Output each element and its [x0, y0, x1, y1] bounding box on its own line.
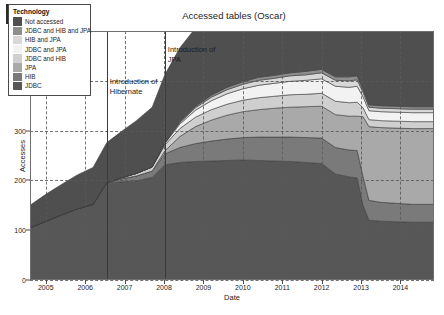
gridline-horizontal: [30, 280, 434, 281]
x-axis-tick-label: 2012: [314, 284, 330, 291]
legend-item: JDBC and JPA: [13, 45, 86, 54]
figure-panel: (a) Accessed tables (Oscar) 010020030040…: [0, 0, 444, 315]
x-axis-tick-label: 2013: [353, 284, 369, 291]
legend-item-label: JPA: [25, 64, 36, 71]
x-axis-tick-label: 2010: [235, 284, 251, 291]
legend-swatch-icon: [13, 82, 22, 90]
legend-swatch-icon: [13, 27, 22, 35]
y-axis-tick-label: 300: [14, 127, 26, 134]
legend-item-label: JDBC: [25, 82, 41, 89]
legend-item: JPA: [13, 63, 86, 72]
legend: Technology Not accessedJDBC and HIB and …: [8, 4, 91, 96]
y-axis-tick-mark: [26, 180, 30, 181]
x-axis-tick-label: 2005: [38, 284, 54, 291]
event-annotation-label: Introduction of Hibernate: [110, 77, 170, 97]
legend-item-label: Not accessed: [25, 18, 63, 25]
x-axis-tick-mark: [282, 280, 283, 284]
x-axis-tick-label: 2011: [275, 284, 290, 291]
y-axis-tick-mark: [26, 130, 30, 131]
y-axis-tick-label: 200: [14, 177, 26, 184]
x-axis-tick-mark: [85, 280, 86, 284]
legend-swatch-icon: [13, 54, 22, 62]
x-axis-tick-mark: [203, 280, 204, 284]
legend-item-label: HIB and JPA: [25, 36, 61, 43]
legend-swatch-icon: [13, 63, 22, 71]
x-axis-tick-label: 2008: [156, 284, 172, 291]
legend-swatch-icon: [13, 17, 22, 25]
x-axis-tick-label: 2014: [393, 284, 409, 291]
x-axis-tick-label: 2006: [77, 284, 93, 291]
legend-item-label: JDBC and HIB: [25, 55, 66, 62]
legend-item: JDBC and HIB and JPA: [13, 26, 86, 35]
legend-swatch-icon: [13, 36, 22, 44]
y-axis-tick-label: 100: [14, 227, 26, 234]
x-axis-tick-mark: [125, 280, 126, 284]
legend-swatch-icon: [13, 45, 22, 53]
legend-title: Technology: [13, 8, 86, 15]
x-axis-tick-label: 2007: [117, 284, 133, 291]
legend-item: JDBC: [13, 81, 86, 90]
x-axis-tick-mark: [400, 280, 401, 284]
legend-item: HIB and JPA: [13, 35, 86, 44]
legend-item-label: JDBC and JPA: [25, 46, 67, 53]
y-axis-label: Accesses: [18, 139, 27, 171]
legend-item-label: HIB: [25, 73, 36, 80]
legend-item: HIB: [13, 72, 86, 81]
x-axis-tick-label: 2009: [196, 284, 212, 291]
legend-swatch-icon: [13, 73, 22, 81]
event-annotation-label: Introduction of JPA: [168, 45, 228, 65]
x-axis-tick-mark: [243, 280, 244, 284]
x-axis-tick-mark: [164, 280, 165, 284]
x-axis-label: Date: [30, 293, 434, 302]
x-axis-tick-mark: [322, 280, 323, 284]
y-axis-tick-mark: [26, 280, 30, 281]
y-axis-tick-mark: [26, 230, 30, 231]
legend-item: Not accessed: [13, 17, 86, 26]
legend-item: JDBC and HIB: [13, 54, 86, 63]
x-axis-tick-mark: [361, 280, 362, 284]
legend-item-label: JDBC and HIB and JPA: [25, 27, 91, 34]
chart-title: Accessed tables (Oscar): [30, 10, 438, 21]
x-axis-tick-mark: [46, 280, 47, 284]
